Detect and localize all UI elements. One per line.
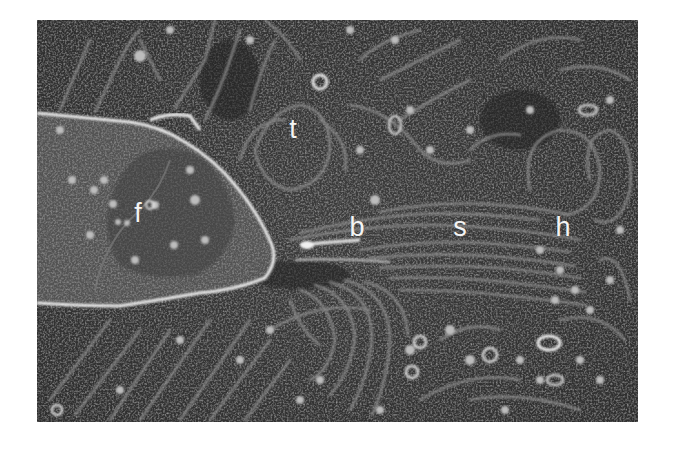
- label-s: s: [453, 212, 467, 242]
- label-b: b: [349, 212, 364, 242]
- label-t: t: [289, 114, 297, 144]
- micrograph-image: t f b s h: [37, 20, 638, 422]
- label-f: f: [134, 198, 142, 228]
- label-h: h: [555, 212, 570, 242]
